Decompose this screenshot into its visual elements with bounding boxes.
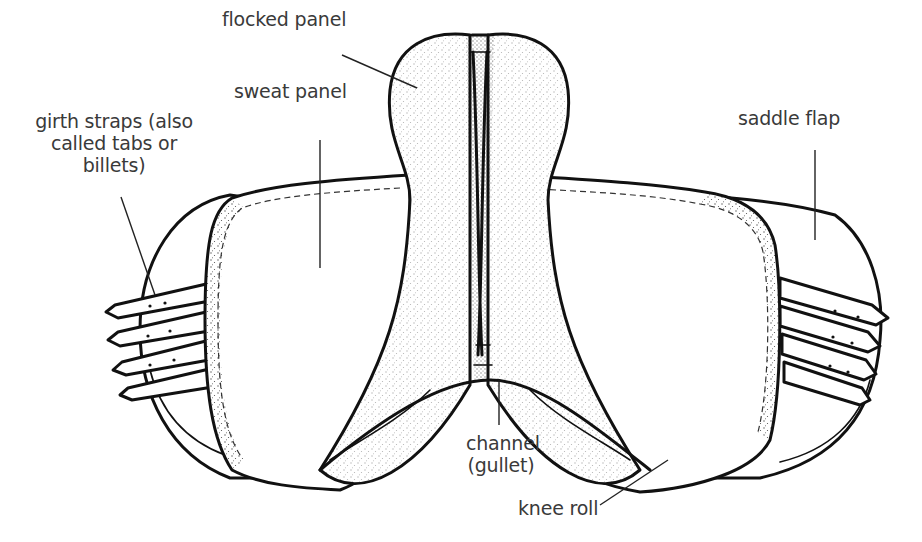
label-girth-straps: girth straps (also called tabs or billet… [24, 110, 204, 176]
saddle-diagram [0, 0, 922, 542]
label-channel-gullet: channel (gullet) [466, 432, 536, 476]
label-saddle-flap: saddle flap [738, 107, 840, 129]
label-flocked-panel: flocked panel [222, 8, 346, 30]
leader-girth-straps [121, 197, 155, 295]
label-sweat-panel: sweat panel [234, 80, 347, 102]
label-knee-roll: knee roll [518, 497, 598, 519]
